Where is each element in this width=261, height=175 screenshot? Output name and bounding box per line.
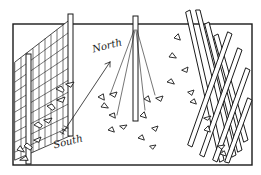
trellis-drawing [0,0,261,175]
a-frame-lattice-trellis [167,10,252,163]
trellis-illustration: North South [0,0,261,175]
teepee-string-trellis [98,16,163,149]
